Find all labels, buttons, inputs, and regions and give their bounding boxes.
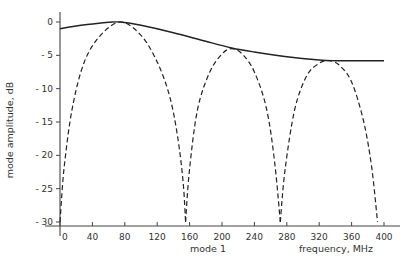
mode-lobe-3 xyxy=(280,61,377,222)
x-tick-label: 240 xyxy=(246,232,263,242)
mode-label: mode 1 xyxy=(190,243,226,254)
y-tick-label: - 30 xyxy=(35,217,53,227)
x-tick-label: 40 xyxy=(87,232,99,242)
mode-lobe-2 xyxy=(186,49,281,222)
y-tick-label: - 20 xyxy=(35,150,53,160)
y-tick-label: - 25 xyxy=(35,184,53,194)
y-axis-title: mode amplitude, dB xyxy=(4,82,15,179)
x-tick-label: 200 xyxy=(213,232,230,242)
mode-amplitude-chart: 0- 5- 10- 15- 20- 25- 300408012016020024… xyxy=(0,0,416,266)
x-tick-label: 360 xyxy=(343,232,360,242)
x-tick-label: 160 xyxy=(181,232,198,242)
x-tick-label: 280 xyxy=(278,232,295,242)
y-tick-label: - 15 xyxy=(35,117,53,127)
x-tick-label: 120 xyxy=(149,232,166,242)
axis-labels: 0- 5- 10- 15- 20- 25- 300408012016020024… xyxy=(4,17,393,254)
x-axis-title: frequency, MHz xyxy=(299,243,373,254)
x-tick-label: 400 xyxy=(375,232,392,242)
y-tick-label: - 10 xyxy=(35,84,53,94)
plot-series xyxy=(60,22,384,222)
y-tick-label: - 5 xyxy=(41,50,53,60)
x-tick-label: 0 xyxy=(62,232,68,242)
mode-lobe-1 xyxy=(60,22,186,222)
x-tick-label: 320 xyxy=(311,232,328,242)
x-tick-label: 80 xyxy=(119,232,131,242)
y-tick-label: 0 xyxy=(47,17,53,27)
